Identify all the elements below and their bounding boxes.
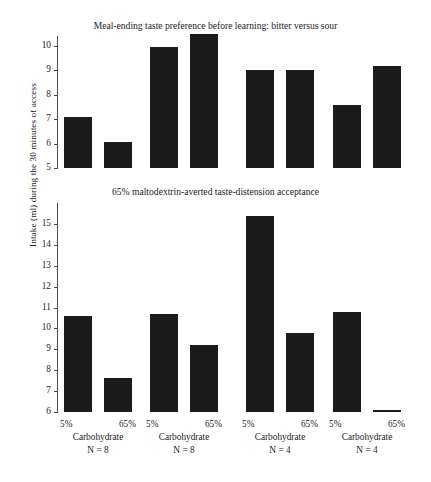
y-tick-label: 7 — [25, 386, 51, 395]
y-tick-label: 9 — [25, 65, 51, 74]
y-tick-mark — [54, 70, 58, 71]
y-tick-mark — [54, 168, 58, 169]
x-tick-label-low: 5% — [242, 418, 254, 431]
bar — [64, 316, 92, 412]
y-tick-mark — [54, 245, 58, 246]
y-tick-label: 8 — [25, 365, 51, 374]
x-group-name: Carbohydrate — [50, 431, 146, 444]
x-tick-label-high: 65% — [119, 418, 136, 431]
x-axis-group: 5%65%CarbohydrateN = 8 — [50, 418, 146, 457]
x-group-name: Carbohydrate — [232, 431, 328, 444]
x-tick-label-high: 65% — [388, 418, 405, 431]
y-tick-label: 9 — [25, 344, 51, 353]
y-tick-label: 6 — [25, 139, 51, 148]
x-axis-group: 5%65%CarbohydrateN = 4 — [232, 418, 328, 457]
bar — [333, 312, 361, 412]
y-tick-label: 10 — [25, 323, 51, 332]
x-group-sample-size: N = 8 — [136, 444, 232, 457]
x-group-name: Carbohydrate — [136, 431, 232, 444]
y-tick-label: 8 — [25, 90, 51, 99]
x-axis-group: 5%65%CarbohydrateN = 4 — [319, 418, 415, 457]
y-tick-mark — [54, 370, 58, 371]
panel-top-title: Meal-ending taste preference before lear… — [0, 20, 431, 31]
bar — [64, 117, 92, 168]
x-tick-label-high: 65% — [301, 418, 318, 431]
bar — [104, 142, 132, 168]
bar — [246, 70, 274, 168]
x-tick-label-high: 65% — [205, 418, 222, 431]
y-tick-mark — [54, 349, 58, 350]
y-tick-label: 11 — [25, 303, 51, 312]
y-axis-line-top — [57, 36, 58, 168]
y-tick-label: 13 — [25, 261, 51, 270]
x-tick-label-low: 5% — [60, 418, 72, 431]
panel-bottom-title: 65% maltodextrin-averted taste-distensio… — [0, 186, 431, 197]
y-tick-mark — [54, 95, 58, 96]
bar — [373, 66, 401, 168]
bar — [286, 333, 314, 412]
y-tick-mark — [54, 224, 58, 225]
y-tick-mark — [54, 412, 58, 413]
bar — [333, 105, 361, 168]
bar — [150, 47, 178, 168]
x-tick-label-low: 5% — [329, 418, 341, 431]
bar — [190, 345, 218, 412]
y-tick-mark — [54, 266, 58, 267]
y-tick-mark — [54, 287, 58, 288]
bar — [373, 410, 401, 412]
bar — [104, 378, 132, 412]
x-group-sample-size: N = 4 — [319, 444, 415, 457]
y-tick-label: 15 — [25, 219, 51, 228]
bar — [246, 216, 274, 412]
y-tick-label: 7 — [25, 114, 51, 123]
bar — [190, 34, 218, 168]
y-tick-label: 10 — [25, 41, 51, 50]
x-axis-group: 5%65%CarbohydrateN = 8 — [136, 418, 232, 457]
bar — [286, 70, 314, 168]
y-tick-mark — [54, 391, 58, 392]
y-tick-mark — [54, 119, 58, 120]
x-group-sample-size: N = 4 — [232, 444, 328, 457]
x-group-name: Carbohydrate — [319, 431, 415, 444]
y-tick-label: 14 — [25, 240, 51, 249]
figure-canvas: Intake (ml) during the 30 minutes of acc… — [0, 0, 431, 482]
y-tick-mark — [54, 308, 58, 309]
x-group-sample-size: N = 8 — [50, 444, 146, 457]
x-tick-label-low: 5% — [146, 418, 158, 431]
y-tick-label: 5 — [25, 163, 51, 172]
y-tick-mark — [54, 328, 58, 329]
bar — [150, 314, 178, 412]
y-tick-mark — [54, 144, 58, 145]
y-tick-mark — [54, 46, 58, 47]
y-tick-label: 12 — [25, 282, 51, 291]
y-tick-label: 6 — [25, 407, 51, 416]
